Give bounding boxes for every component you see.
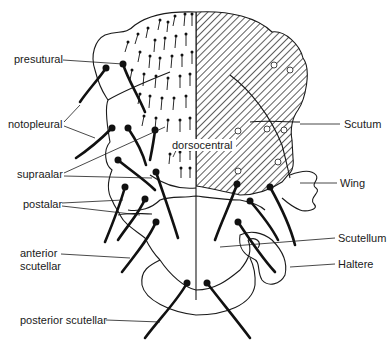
scutum-hatched-half	[196, 12, 307, 195]
microchaetae	[125, 13, 194, 179]
thorax-bristle-diagram: presutural notopleural supraalar postala…	[0, 0, 391, 356]
label-haltere: Haltere	[338, 258, 373, 270]
label-dorsocentral: dorsocentral	[172, 139, 233, 151]
label-postalar: postalar	[23, 198, 62, 210]
label-posterior-scutellar: posterior scutellar	[20, 314, 107, 326]
label-wing: Wing	[340, 177, 365, 189]
label-presutural: presutural	[14, 53, 63, 65]
label-scutum: Scutum	[344, 118, 381, 130]
wing-stub	[282, 171, 318, 211]
label-anterior-scutellar-line2: scutellar	[20, 260, 61, 272]
label-notopleural: notopleural	[8, 118, 62, 130]
label-anterior-scutellar-line1: anterior	[20, 247, 58, 259]
label-supraalar: supraalar	[17, 168, 63, 180]
label-scutellum: Scutellum	[338, 232, 386, 244]
